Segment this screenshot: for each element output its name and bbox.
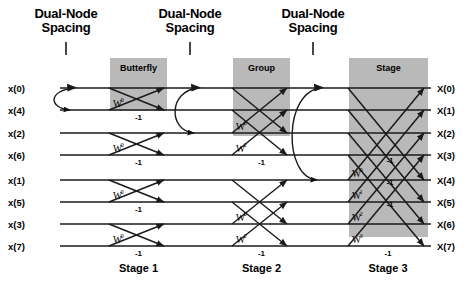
stage-label-1: Stage 1 — [119, 262, 158, 274]
highlight-box-label-butterfly: Butterfly — [120, 63, 157, 73]
twiddle-exponent-s3-2: 2 — [360, 210, 363, 217]
output-label-1: X(1) — [437, 105, 455, 116]
output-label-3: X(3) — [437, 150, 455, 161]
minus-one-inner-s3-1: -1 — [386, 178, 394, 187]
input-label-5: x(5) — [8, 197, 25, 208]
highlight-box-label-stage: Stage — [376, 63, 401, 73]
stage-label-2: Stage 2 — [242, 262, 281, 274]
dual-node-spacing-arc-3 — [292, 88, 322, 180]
dual-node-spacing-title-line2-1: Spacing — [41, 20, 90, 35]
output-label-6: X(6) — [437, 219, 455, 230]
output-label-0: X(0) — [437, 83, 455, 94]
input-label-4: x(1) — [8, 175, 25, 186]
minus-one-label-s1-0: -1 — [135, 113, 143, 122]
annotation-tick-layer — [66, 42, 313, 55]
input-label-0: x(0) — [8, 83, 25, 94]
input-label-6: x(3) — [8, 219, 25, 230]
dual-node-spacing-arc-1 — [54, 88, 75, 110]
twiddle-exponent-s2-2: 0 — [244, 210, 247, 217]
dual-node-spacing-arrowhead-top-3 — [314, 84, 324, 92]
twiddle-exponent-s2-1: 2 — [244, 141, 247, 148]
output-label-4: X(4) — [437, 175, 455, 186]
twiddle-exponent-s3-3: 3 — [360, 232, 363, 239]
twiddle-exponent-s1-1: 0 — [121, 141, 124, 148]
twiddle-exponent-s1-3: 0 — [121, 232, 124, 239]
minus-one-label-s1-3: -1 — [135, 249, 143, 258]
minus-one-label-s2-0: -1 — [258, 158, 266, 167]
dual-node-spacing-title-line2-3: Spacing — [288, 20, 337, 35]
dual-node-spacing-title-line1-2: Dual-Node — [158, 6, 221, 21]
input-label-3: x(6) — [8, 150, 25, 161]
twiddle-exponent-s3-1: 1 — [360, 188, 363, 195]
twiddle-exponent-s1-0: 0 — [121, 96, 124, 103]
input-label-2: x(2) — [8, 128, 25, 139]
minus-one-inner-s3-0: -1 — [386, 156, 394, 165]
dual-node-spacing-title-line1-1: Dual-Node — [34, 6, 97, 21]
dual-node-spacing-title-line2-2: Spacing — [165, 20, 214, 35]
minus-one-label-s1-1: -1 — [135, 158, 143, 167]
twiddle-exponent-s1-2: 0 — [121, 188, 124, 195]
dual-node-spacing-arrowhead-top-1 — [67, 84, 77, 92]
input-label-1: x(4) — [8, 105, 25, 116]
dual-node-spacing-arrowhead-top-2 — [191, 84, 201, 92]
output-label-5: X(5) — [437, 197, 455, 208]
fft-butterfly-diagram: ButterflyGroupStagex(0)x(4)x(2)x(6)x(1)x… — [0, 0, 473, 287]
highlight-box-label-group: Group — [248, 63, 275, 73]
minus-one-inner-s3-2: -1 — [386, 200, 394, 209]
minus-one-label-s3-0: -1 — [384, 249, 392, 258]
stage-label-3: Stage 3 — [368, 262, 407, 274]
dual-node-spacing-title-line1-3: Dual-Node — [281, 6, 344, 21]
twiddle-exponent-s3-0: 0 — [360, 166, 363, 173]
fft-flow-graph-svg: ButterflyGroupStagex(0)x(4)x(2)x(6)x(1)x… — [0, 0, 473, 287]
output-label-7: X(7) — [437, 241, 455, 252]
twiddle-exponent-s2-3: 2 — [244, 232, 247, 239]
twiddle-exponent-s2-0: 0 — [244, 119, 247, 126]
minus-one-label-s2-1: -1 — [258, 249, 266, 258]
minus-one-label-s1-2: -1 — [135, 205, 143, 214]
input-label-7: x(7) — [8, 241, 25, 252]
output-label-2: X(2) — [437, 128, 455, 139]
